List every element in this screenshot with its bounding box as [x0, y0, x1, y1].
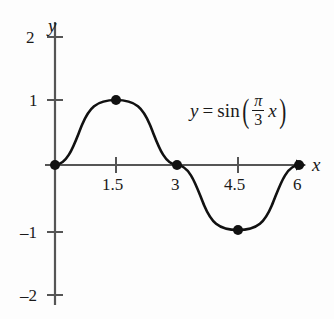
equation-open-paren: ( — [242, 97, 249, 125]
data-point-3-0 — [172, 160, 182, 170]
data-point-6-0 — [294, 160, 304, 170]
equation-argument: x — [268, 101, 276, 120]
y-tick-label-neg1: –1 — [20, 224, 37, 241]
y-tick-label-2: 2 — [26, 29, 35, 46]
x-tick-label-6: 6 — [293, 176, 302, 193]
data-point-0-0 — [50, 160, 60, 170]
y-tick-label-neg2: –2 — [20, 287, 37, 304]
x-tick-label-4point5: 4.5 — [224, 176, 245, 193]
sine-function-graph-figure: y x 2 1 –1 –2 1.5 3 4.5 6 y = sin ( π 3 … — [0, 0, 334, 319]
x-tick-label-3: 3 — [171, 176, 180, 193]
equation-fraction-numerator: π — [252, 93, 264, 110]
equation-fraction: π 3 — [252, 93, 264, 128]
equation-function-name: sin — [217, 101, 240, 120]
equation-close-paren: ) — [279, 97, 286, 125]
plot-canvas — [0, 0, 334, 319]
equation-fraction-denominator: 3 — [252, 111, 264, 128]
y-axis-label: y — [48, 16, 56, 35]
equation-equals-sign: = — [202, 101, 213, 120]
y-tick-label-1: 1 — [29, 92, 38, 109]
x-axis-label: x — [312, 155, 320, 174]
equation-lhs: y — [190, 101, 198, 120]
data-point-4point5-neg1 — [233, 225, 243, 235]
data-point-1point5-1 — [111, 95, 121, 105]
equation-annotation: y = sin ( π 3 x ) — [190, 93, 288, 128]
x-tick-label-1point5: 1.5 — [102, 176, 123, 193]
